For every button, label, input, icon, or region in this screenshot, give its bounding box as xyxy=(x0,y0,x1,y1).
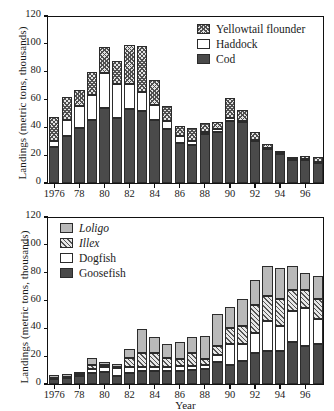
bar-segment-illex xyxy=(300,290,310,308)
bar-segment-illex xyxy=(250,305,260,333)
y-tick-label: 60 xyxy=(31,293,42,304)
y-tick-mark xyxy=(44,383,49,384)
bar-segment-goosefish xyxy=(74,376,84,384)
bar-segment-haddock xyxy=(87,95,97,121)
x-tick-mark xyxy=(154,384,155,389)
bar-segment-goosefish xyxy=(124,373,134,384)
bar-segment-illex xyxy=(212,346,222,355)
x-tick-mark xyxy=(79,183,80,188)
bar-segment-illex xyxy=(124,358,134,367)
bar-segment-loligo xyxy=(237,299,247,325)
bar-segment-cod xyxy=(74,128,84,183)
bar-segment-dogfish xyxy=(237,344,247,361)
bar-segment-illex xyxy=(237,326,247,344)
bar-segment-cod xyxy=(124,109,134,183)
bar-1984 xyxy=(149,16,159,183)
y-tick-label: 0 xyxy=(36,376,41,387)
bar-1979 xyxy=(87,16,97,183)
y-tick-label: 40 xyxy=(31,119,42,130)
bar-segment-haddock xyxy=(99,73,109,108)
bar-segment-yellowtail-flounder xyxy=(225,98,235,118)
bar-segment-cod xyxy=(162,129,172,183)
bar-segment-goosefish xyxy=(175,371,185,384)
bar-segment-dogfish xyxy=(162,367,172,371)
legend-label: Yellowtail flounder xyxy=(216,23,305,35)
bar-segment-loligo xyxy=(175,342,185,359)
bar-segment-dogfish xyxy=(149,367,159,372)
bar-segment-goosefish xyxy=(287,342,297,384)
bar-segment-goosefish xyxy=(162,371,172,384)
bar-segment-yellowtail-flounder xyxy=(137,46,147,92)
bar-segment-cod xyxy=(250,141,260,183)
bar-1976 xyxy=(49,16,59,183)
x-tick-mark xyxy=(179,384,180,389)
bar-segment-cod xyxy=(237,122,247,183)
legend-item-dogfish: Dogfish xyxy=(60,251,126,265)
bar-segment-dogfish xyxy=(87,369,97,373)
bar-segment-yellowtail-flounder xyxy=(49,117,59,141)
x-tick-mark xyxy=(104,384,105,389)
y-tick-label: 40 xyxy=(31,320,42,331)
y-tick-label: 0 xyxy=(36,175,41,186)
y-tick-mark xyxy=(44,356,49,357)
x-tick-mark xyxy=(229,183,230,188)
y-tick-label: 100 xyxy=(25,237,41,248)
y-tick-label: 20 xyxy=(31,147,42,158)
bar-segment-goosefish xyxy=(313,344,323,384)
x-tick-mark xyxy=(129,183,130,188)
bar-segment-illex xyxy=(162,358,172,366)
bar-1985 xyxy=(162,16,172,183)
y-tick-mark xyxy=(44,182,49,183)
chart-panel-invertebrates: Landings (metric tons, thousands) 020406… xyxy=(0,203,334,411)
legend-item-haddock: Haddock xyxy=(197,37,305,51)
bar-segment-yellowtail-flounder xyxy=(162,106,172,121)
bar-segment-cod xyxy=(225,121,235,183)
bar-segment-dogfish xyxy=(124,367,134,373)
bar-segment-yellowtail-flounder xyxy=(237,110,247,121)
bar-segment-cod xyxy=(175,143,185,183)
y-tick-mark xyxy=(44,43,49,44)
bar-1997 xyxy=(313,16,323,183)
bar-segment-loligo xyxy=(250,280,260,305)
legend-swatch-dogfish xyxy=(60,253,73,263)
bar-1985 xyxy=(162,217,172,384)
bar-segment-yellowtail-flounder xyxy=(74,90,84,106)
x-tick-mark xyxy=(79,384,80,389)
bar-1994 xyxy=(275,217,285,384)
bar-segment-loligo xyxy=(99,362,109,365)
bar-segment-illex xyxy=(87,365,97,369)
legend-item-yellowtail-flounder: Yellowtail flounder xyxy=(197,22,305,36)
bar-segment-yellowtail-flounder xyxy=(62,97,72,120)
bar-1977 xyxy=(62,16,72,183)
y-axis-title-bottom: Landings (metric tons, thousands) xyxy=(18,227,30,387)
bar-segment-loligo xyxy=(275,268,285,299)
x-tick-label: 78 xyxy=(74,188,85,199)
bar-1981 xyxy=(112,16,122,183)
bar-segment-goosefish xyxy=(87,373,97,384)
bar-segment-cod xyxy=(275,154,285,183)
y-tick-mark xyxy=(44,244,49,245)
bar-segment-dogfish xyxy=(112,368,122,376)
bar-segment-cod xyxy=(149,120,159,183)
bar-segment-dogfish xyxy=(99,367,109,373)
bar-segment-cod xyxy=(62,136,72,183)
bar-segment-dogfish xyxy=(212,355,222,361)
legend-label: Illex xyxy=(79,237,99,249)
bar-segment-dogfish xyxy=(262,321,272,351)
y-tick-label: 120 xyxy=(25,8,41,19)
bar-segment-goosefish xyxy=(262,351,272,384)
x-tick-mark xyxy=(305,183,306,188)
bar-segment-haddock xyxy=(49,141,59,147)
bar-1984 xyxy=(149,217,159,384)
bar-segment-haddock xyxy=(112,84,122,118)
bar-segment-loligo xyxy=(300,273,310,290)
bar-segment-cod xyxy=(137,111,147,183)
x-tick-label: 96 xyxy=(300,188,311,199)
bar-segment-illex xyxy=(275,299,285,325)
bar-segment-yellowtail-flounder xyxy=(200,123,210,132)
x-tick-label: 82 xyxy=(124,188,135,199)
bar-segment-goosefish xyxy=(300,346,310,384)
bar-segment-loligo xyxy=(187,337,197,354)
legend-item-illex: Illex xyxy=(60,236,126,250)
bar-1987 xyxy=(187,217,197,384)
